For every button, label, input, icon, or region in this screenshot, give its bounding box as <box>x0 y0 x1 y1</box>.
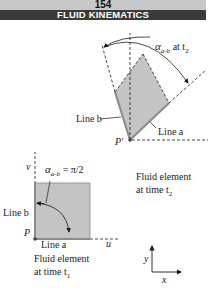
point-p-prime-label: P′ <box>114 136 124 147</box>
deformed-line-b-label: Line b <box>76 113 102 124</box>
original-line-b-label: Line b <box>3 207 29 218</box>
svg-text:at time t2: at time t2 <box>136 184 173 198</box>
original-line-a-label: Line a <box>41 239 67 250</box>
caption-t2-line2: at time t <box>136 184 169 195</box>
svg-text:αa-b = π/2: αa-b = π/2 <box>45 163 84 178</box>
point-p <box>33 237 37 241</box>
x-axis-label: x <box>161 274 167 285</box>
original-fluid-element-shape <box>35 183 90 239</box>
y-axis-label: y <box>143 253 149 264</box>
line-a-extension <box>169 70 206 103</box>
deformed-element: αa-b at t2 Line b Line a P′ Fluid elemen… <box>76 33 208 198</box>
caption-t2-line1: Fluid element <box>136 171 191 182</box>
svg-text:αa-b at t2: αa-b at t2 <box>155 40 189 55</box>
v-axis-label: v <box>26 161 31 172</box>
point-p-prime <box>128 138 132 142</box>
original-element: v u αa-b = π/2 Line b Line a P Fluid ele… <box>3 152 118 280</box>
u-axis-label: u <box>106 238 111 249</box>
point-p-label: P <box>23 227 30 238</box>
svg-text:at time t1: at time t1 <box>34 266 71 280</box>
line-b-extension <box>102 45 115 92</box>
xy-coordinate-axes: y x <box>143 246 181 285</box>
deformed-line-a-label: Line a <box>158 126 184 137</box>
caption-t1-line2: at time t <box>34 266 67 277</box>
fluid-element-diagram: αa-b at t2 Line b Line a P′ Fluid elemen… <box>0 0 216 288</box>
caption-t1-line1: Fluid element <box>34 253 89 264</box>
